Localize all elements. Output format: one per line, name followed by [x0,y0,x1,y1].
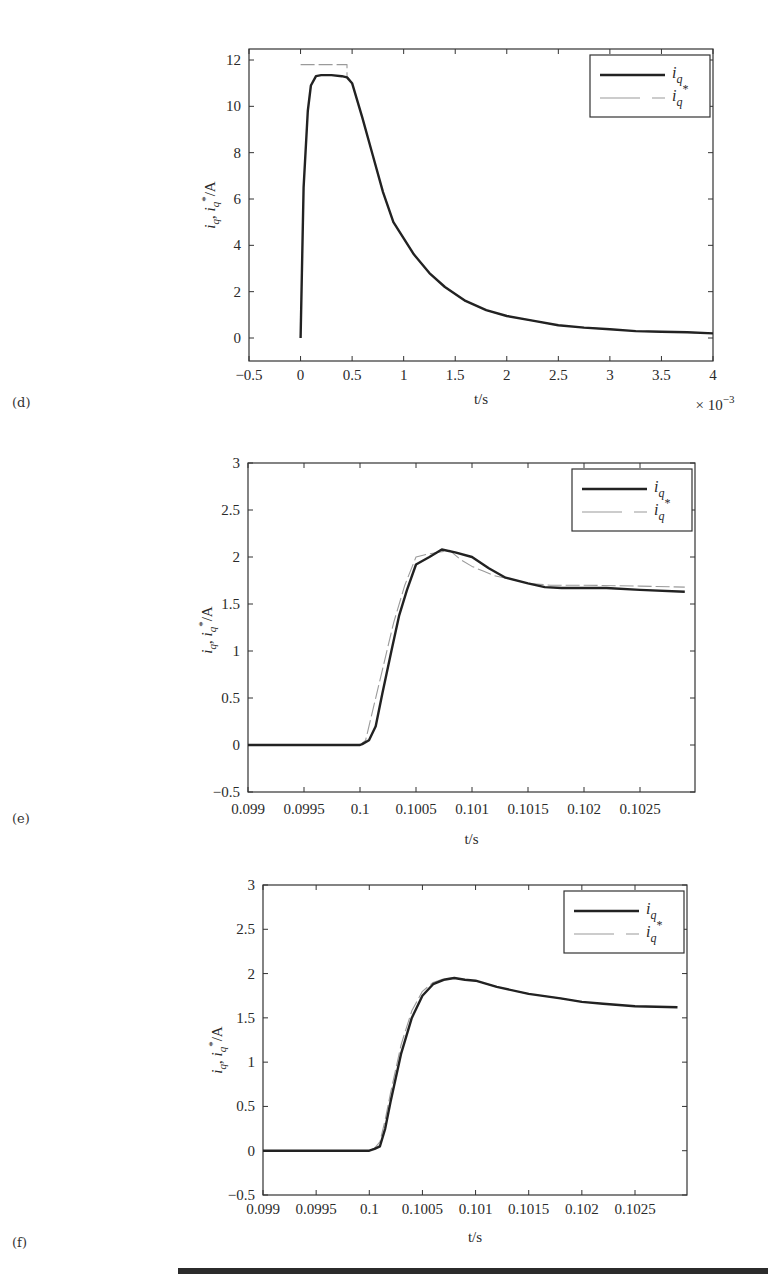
x-tick-label: 0.1015 [508,1201,549,1217]
y-tick-label: 10 [226,98,241,114]
x-tick-label: 0.099 [246,1201,280,1217]
y-tick-label: 0.5 [236,1098,255,1114]
y-tick-label: 0.5 [221,690,240,706]
y-tick-label: 3 [233,455,241,471]
chart-e: 0.0990.09950.10.10050.1010.10150.1020.10… [0,420,768,870]
y-tick-label: 4 [234,237,242,253]
y-tick-label: 1 [233,643,241,659]
y-axis-title: iq, iq*/A [196,606,218,654]
x-axis-title: t/s [468,1229,482,1245]
x-tick-label: 0.0995 [283,801,324,817]
x-tick-label: 0.0995 [296,1201,337,1217]
chart-panel-d: −0.500.511.522.533.54024681012t/s× 10−3i… [0,0,768,420]
y-tick-label: 1.5 [236,1010,255,1026]
panel-label-f: (f) [12,1235,27,1250]
series-iq-line [248,550,685,746]
svg-text:iq, iq*/A: iq, iq*/A [206,1026,228,1074]
x-tick-label: 0.5 [343,367,362,383]
x-tick-label: 1.5 [446,367,465,383]
y-tick-label: 0 [233,737,241,753]
y-tick-label: 2.5 [236,921,255,937]
x-tick-label: 1 [400,367,408,383]
panel-label-e: (e) [12,811,30,826]
y-tick-label: 3 [248,877,256,893]
x-tick-label: 0.101 [459,1201,493,1217]
x-tick-label: 0.1005 [402,1201,443,1217]
y-tick-label: −0.5 [228,1187,255,1203]
x-tick-label: −0.5 [235,367,262,383]
y-axis-title: iq, iq*/A [206,1026,228,1074]
x-tick-label: 3.5 [652,367,671,383]
x-tick-label: 0.1015 [507,801,548,817]
x-tick-label: 0.1 [360,1201,379,1217]
svg-text:iq, iq*/A: iq, iq*/A [199,181,221,229]
x-tick-label: 4 [709,367,717,383]
chart-panel-f: 0.0990.09950.10.10050.1010.10150.1020.10… [0,870,768,1283]
x-tick-label: 3 [606,367,614,383]
x-tick-label: 0.1025 [614,1201,655,1217]
x-tick-label: 0.102 [565,1201,599,1217]
series-iq-ref-line [248,550,685,745]
y-tick-label: 1 [248,1054,256,1070]
legend: iqiq* [572,469,692,531]
x-tick-label: 0.102 [567,801,601,817]
y-tick-label: 8 [234,145,242,161]
x-axis-title: t/s [474,391,488,407]
legend: iqiq* [590,55,710,117]
y-tick-label: 2 [234,284,242,300]
y-tick-label: −0.5 [213,784,240,800]
panel-label-d: (d) [12,395,30,410]
x-tick-label: 0.099 [231,801,265,817]
y-tick-label: 0 [248,1143,256,1159]
y-tick-label: 1.5 [221,596,240,612]
x-tick-label: 0 [297,367,305,383]
y-axis-title: iq, iq*/A [199,181,221,229]
x-tick-label: 2 [503,367,511,383]
chart-d: −0.500.511.522.533.54024681012t/s× 10−3i… [0,0,768,420]
x-tick-label: 2.5 [549,367,568,383]
y-tick-label: 2 [248,966,256,982]
chart-panel-e: 0.0990.09950.10.10050.1010.10150.1020.10… [0,420,768,870]
x-tick-label: 0.1005 [395,801,436,817]
x-axis-multiplier: × 10−3 [696,393,735,413]
y-tick-label: 12 [226,52,241,68]
x-axis-title: t/s [464,831,478,847]
chart-f: 0.0990.09950.10.10050.1010.10150.1020.10… [0,870,768,1283]
page-bottom-rule [178,1268,768,1274]
legend: iqiq* [564,891,684,953]
y-tick-label: 6 [234,191,242,207]
y-tick-label: 0 [234,330,242,346]
y-tick-label: 2 [233,549,241,565]
x-tick-label: 0.101 [455,801,489,817]
y-tick-label: 2.5 [221,502,240,518]
x-tick-label: 0.1025 [619,801,660,817]
x-tick-label: 0.1 [351,801,370,817]
svg-text:iq, iq*/A: iq, iq*/A [196,606,218,654]
series-iq-line [263,978,678,1151]
